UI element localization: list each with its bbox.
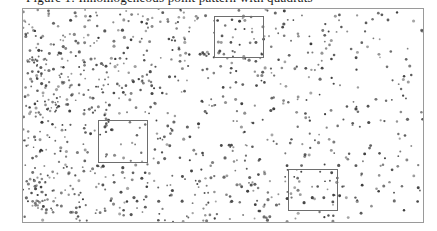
caption-clip: Figure 1: Inhomogeneous point pattern wi… [0, 0, 437, 7]
scatter-point-layer [23, 9, 423, 222]
plot-frame [22, 8, 424, 223]
figure-container: Figure 1: Inhomogeneous point pattern wi… [0, 0, 437, 231]
figure-caption: Figure 1: Inhomogeneous point pattern wi… [26, 0, 313, 6]
